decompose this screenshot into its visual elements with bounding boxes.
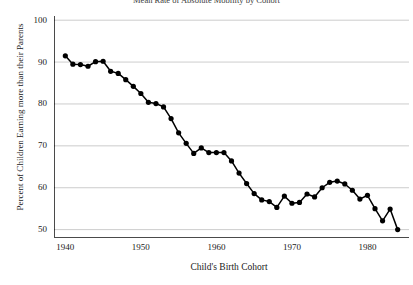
chart-title: Mean Rate of Absolute Mobility by Cohort bbox=[0, 0, 413, 5]
y-axis-title: Percent of Children Earning more than th… bbox=[15, 2, 25, 232]
data-point-marker bbox=[320, 185, 325, 190]
y-tick-label: 70 bbox=[21, 141, 47, 150]
data-point-marker bbox=[123, 77, 128, 82]
x-tick-label: 1980 bbox=[347, 243, 387, 252]
x-tick-label: 1950 bbox=[121, 243, 161, 252]
data-point-marker bbox=[138, 91, 143, 96]
data-point-marker bbox=[395, 227, 400, 232]
data-point-marker bbox=[282, 194, 287, 199]
series-line bbox=[65, 56, 397, 230]
x-tick-label: 1960 bbox=[196, 243, 236, 252]
data-point-marker bbox=[380, 218, 385, 223]
chart-figure: Mean Rate of Absolute Mobility by Cohort… bbox=[0, 0, 413, 285]
data-point-marker bbox=[176, 130, 181, 135]
data-point-marker bbox=[236, 170, 241, 175]
plot-area bbox=[54, 16, 409, 238]
data-point-marker bbox=[350, 188, 355, 193]
y-tick-label: 50 bbox=[21, 225, 47, 234]
y-tick-label: 60 bbox=[21, 183, 47, 192]
data-point-marker bbox=[259, 197, 264, 202]
data-point-marker bbox=[161, 104, 166, 109]
data-point-marker bbox=[206, 150, 211, 155]
data-point-marker bbox=[221, 150, 226, 155]
data-point-marker bbox=[78, 62, 83, 67]
data-point-marker bbox=[85, 64, 90, 69]
x-tick-label: 1970 bbox=[272, 243, 312, 252]
data-point-marker bbox=[131, 84, 136, 89]
data-point-marker bbox=[252, 191, 257, 196]
series-canvas bbox=[54, 16, 409, 238]
x-tick-label: 1940 bbox=[45, 243, 85, 252]
data-point-marker bbox=[214, 150, 219, 155]
x-axis-title: Child's Birth Cohort bbox=[45, 262, 413, 272]
data-point-marker bbox=[327, 180, 332, 185]
data-point-marker bbox=[70, 62, 75, 67]
data-point-marker bbox=[244, 181, 249, 186]
data-point-marker bbox=[229, 158, 234, 163]
y-tick-label: 100 bbox=[21, 16, 47, 25]
data-point-marker bbox=[365, 193, 370, 198]
data-point-marker bbox=[274, 205, 279, 210]
data-point-marker bbox=[153, 101, 158, 106]
data-point-marker bbox=[388, 207, 393, 212]
data-point-marker bbox=[146, 100, 151, 105]
y-tick-label: 80 bbox=[21, 99, 47, 108]
data-point-marker bbox=[168, 116, 173, 121]
data-point-marker bbox=[93, 59, 98, 64]
data-point-marker bbox=[267, 199, 272, 204]
data-point-marker bbox=[116, 71, 121, 76]
data-point-marker bbox=[312, 194, 317, 199]
data-point-marker bbox=[199, 145, 204, 150]
data-point-marker bbox=[191, 151, 196, 156]
data-point-marker bbox=[184, 141, 189, 146]
data-point-marker bbox=[335, 178, 340, 183]
data-point-marker bbox=[63, 53, 68, 58]
data-point-marker bbox=[289, 201, 294, 206]
y-tick-label: 90 bbox=[21, 58, 47, 67]
data-point-marker bbox=[108, 69, 113, 74]
data-point-marker bbox=[357, 196, 362, 201]
data-point-marker bbox=[342, 181, 347, 186]
data-point-marker bbox=[297, 200, 302, 205]
data-point-marker bbox=[372, 206, 377, 211]
data-point-marker bbox=[304, 191, 309, 196]
data-point-marker bbox=[101, 59, 106, 64]
